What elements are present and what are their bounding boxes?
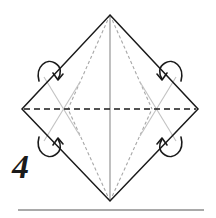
fold-arrow-bottom-right-head bbox=[157, 138, 167, 145]
ghost-right-lower-line bbox=[140, 82, 176, 141]
origami-step-figure: 4 bbox=[0, 0, 216, 218]
ghost-bottom-left-line bbox=[68, 109, 110, 201]
ghost-top-right-to-mid-left-line bbox=[110, 15, 152, 109]
ghost-bottom-right-line bbox=[110, 109, 152, 201]
step-number-label: 4 bbox=[12, 150, 29, 184]
fold-arrow-bottom-left-head bbox=[53, 138, 63, 145]
fold-arrow-top-left-head bbox=[53, 73, 63, 80]
ghost-left-upper-line bbox=[44, 77, 80, 136]
fold-arrow-top-right-head bbox=[157, 73, 167, 80]
ghost-right-upper-line bbox=[140, 77, 176, 136]
ghost-top-left-to-mid-right-line bbox=[68, 15, 110, 109]
ghost-left-lower-line bbox=[44, 82, 80, 141]
origami-diagram bbox=[0, 0, 216, 218]
